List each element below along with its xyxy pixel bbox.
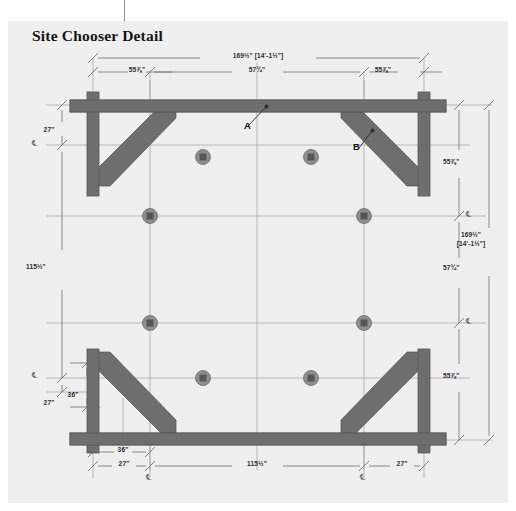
callout-label-a: A <box>244 120 251 131</box>
bottom-upper-dimension: 36" <box>118 446 129 453</box>
right-centerline-symbol-top: ℄ <box>466 210 471 219</box>
left-inner-offset-dimension: 36" <box>68 391 79 398</box>
post-marker <box>196 371 211 386</box>
left-centerline-symbol-bottom: ℄ <box>32 371 37 380</box>
left-span-dimension: 115½" <box>26 263 46 270</box>
left-top-offset-dimension: 27" <box>44 126 55 133</box>
right-segment-dimension-2: 57¾" <box>443 264 459 271</box>
post-marker <box>357 209 372 224</box>
post-marker <box>357 316 372 331</box>
bottom-centerline-symbol-left: ℄ <box>146 473 151 482</box>
left-centerline-symbol-top: ℄ <box>32 139 37 148</box>
right-overall-dimension-line2: [14'-1½"] <box>457 240 486 248</box>
post-marker <box>143 316 158 331</box>
top-segment-dimension-2: 57¾" <box>249 66 265 73</box>
bottom-span-dimension: 115½" <box>247 460 267 467</box>
post-marker <box>304 371 319 386</box>
bottom-left-offset-dimension: 27" <box>119 460 130 467</box>
bottom-centerline-symbol-right: ℄ <box>360 473 365 482</box>
diagonal-braces <box>96 104 421 434</box>
post-marker <box>143 209 158 224</box>
right-overall-dimension-line1: 169½" <box>461 231 481 239</box>
callout-label-b: B <box>353 141 360 152</box>
drawing-page: Site Chooser Detail <box>0 0 516 511</box>
left-bottom-offset-dimension: 27" <box>44 399 55 406</box>
right-dimension-lines <box>454 100 494 445</box>
right-centerline-symbol-bottom: ℄ <box>466 317 471 326</box>
site-plan-drawing <box>0 0 516 511</box>
post-marker <box>196 150 211 165</box>
top-segment-dimension-1: 55⅞" <box>129 66 145 73</box>
bottom-right-offset-dimension: 27" <box>397 460 408 467</box>
top-overall-dimension: 169½" [14'-1½"] <box>233 52 284 59</box>
timber-frame <box>70 92 446 453</box>
right-segment-dimension-3: 55⅞" <box>443 372 459 379</box>
top-segment-dimension-3: 55⅞" <box>375 66 391 73</box>
right-segment-dimension-1: 55⅞" <box>443 158 459 165</box>
post-marker <box>304 150 319 165</box>
